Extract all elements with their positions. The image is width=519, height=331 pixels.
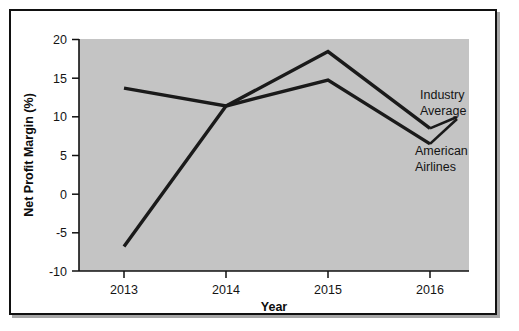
annotation-american-airlines-line1: American [415, 144, 468, 158]
y-tick-label-15: 15 [53, 72, 67, 86]
y-tick-label-neg10: -10 [49, 265, 67, 279]
y-tick-label-20: 20 [53, 33, 67, 47]
annotation-american-airlines-line2: Airlines [415, 160, 456, 174]
y-tick-label-0: 0 [60, 188, 67, 202]
annotation-industry-average-line2: Average [420, 104, 466, 118]
x-tick-label-2014: 2014 [212, 283, 240, 297]
x-axis-title: Year [261, 300, 288, 313]
net-profit-margin-line-chart: 20 15 10 5 0 -5 -10 2013 2014 2015 2016 … [11, 11, 495, 313]
plot-area-background [79, 39, 469, 271]
y-tick-label-5: 5 [60, 149, 67, 163]
y-axis-title: Net Profit Margin (%) [22, 93, 36, 217]
annotation-industry-average-line1: Industry [420, 88, 465, 102]
y-tick-label-10: 10 [53, 110, 67, 124]
x-tick-label-2015: 2015 [314, 283, 342, 297]
x-tick-label-2013: 2013 [110, 283, 138, 297]
x-tick-label-2016: 2016 [416, 283, 444, 297]
y-tick-label-neg5: -5 [56, 226, 67, 240]
chart-figure-frame: 20 15 10 5 0 -5 -10 2013 2014 2015 2016 … [9, 9, 497, 315]
